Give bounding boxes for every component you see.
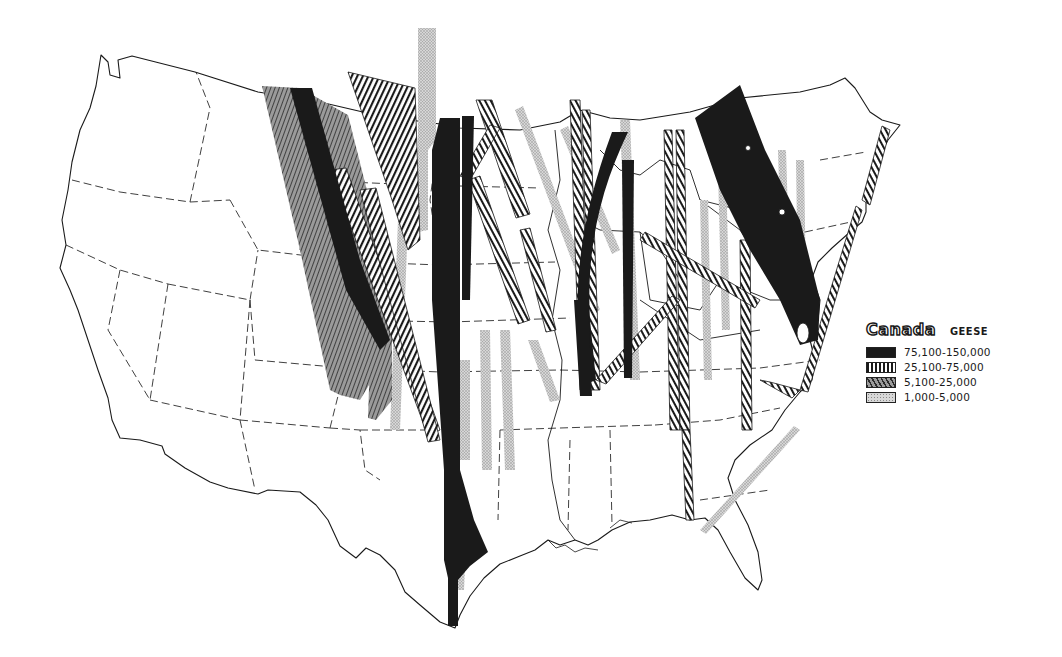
light-stipple-swatch-icon [866, 392, 896, 403]
legend-species-title: Canada [866, 320, 936, 339]
legend-label: 25,100-75,000 [904, 361, 984, 373]
flyway-stripes-2 [460, 100, 890, 520]
legend-item-high: 25,100-75,000 [866, 360, 1046, 374]
legend-label: 5,100-25,000 [904, 376, 977, 388]
vertical-stripes-swatch-icon [866, 362, 896, 373]
legend-item-light: 1,000-5,000 [866, 390, 1046, 404]
diagonal-hatch-swatch-icon [866, 377, 896, 388]
gulf-coast-detail [548, 520, 632, 552]
legend-title: Canada GEESE [866, 320, 1046, 339]
legend-label: 75,100-150,000 [904, 346, 991, 358]
geese-migration-map: Canada GEESE 75,100-150,000 25,100-75,00… [0, 0, 1062, 657]
legend-item-heavy: 75,100-150,000 [866, 345, 1046, 359]
legend-item-medium: 5,100-25,000 [866, 375, 1046, 389]
solid-black-swatch-icon [866, 347, 896, 358]
legend-group-title: GEESE [950, 325, 988, 338]
map-legend: Canada GEESE 75,100-150,000 25,100-75,00… [866, 320, 1046, 405]
legend-label: 1,000-5,000 [904, 391, 970, 403]
